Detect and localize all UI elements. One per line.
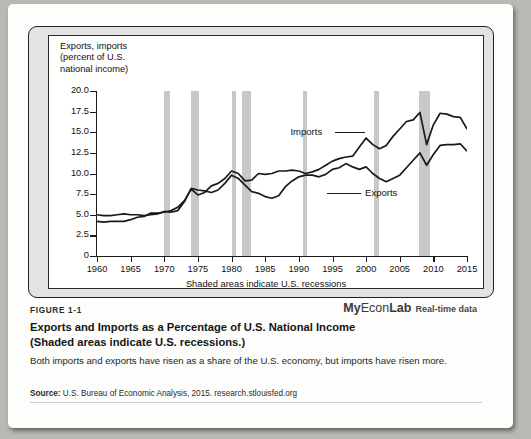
plot-inner xyxy=(97,91,467,256)
figure-panel: Exports, imports (percent of U.S. nation… xyxy=(28,26,494,298)
y-tick-label: 12.5 xyxy=(55,147,89,157)
myeconlab-branding: MyEconLabReal-time data xyxy=(343,301,477,315)
series-label-exports: Exports xyxy=(365,187,397,198)
source-label: Source: xyxy=(30,389,60,398)
y-tick-label: 0 xyxy=(55,250,89,260)
figure-caption-body: Both imports and exports have risen as a… xyxy=(30,354,482,367)
y-tick-label: 17.5 xyxy=(55,106,89,116)
series-label-imports: Imports xyxy=(290,126,322,137)
y-tick-label: 20.0 xyxy=(55,85,89,95)
myeconlab-my: My xyxy=(343,301,360,315)
myeconlab-econ: Econ xyxy=(361,301,390,315)
figure-source: Source: U.S. Bureau of Economic Analysis… xyxy=(30,389,482,398)
y-axis-labels: 02.55.07.510.012.515.017.520.0 xyxy=(49,36,89,288)
x-axis-caption: Shaded areas indicate U.S. recessions xyxy=(49,279,483,289)
y-tick-label: 7.5 xyxy=(55,188,89,198)
chart-plot-card: Exports, imports (percent of U.S. nation… xyxy=(48,35,484,289)
y-tick xyxy=(90,91,97,92)
x-tick xyxy=(400,256,401,262)
y-tick-label: 2.5 xyxy=(55,229,89,239)
x-tick xyxy=(198,256,199,262)
y-tick xyxy=(90,132,97,133)
y-tick xyxy=(90,194,97,195)
x-tick xyxy=(232,256,233,262)
source-divider xyxy=(30,402,482,403)
x-tick xyxy=(97,256,98,262)
x-tick xyxy=(131,256,132,262)
caption-title-line1: Exports and Imports as a Percentage of U… xyxy=(30,320,490,335)
figure-caption-title: Exports and Imports as a Percentage of U… xyxy=(30,320,490,349)
y-tick-label: 15.0 xyxy=(55,126,89,136)
exports-leader-line xyxy=(327,193,361,194)
x-tick xyxy=(366,256,367,262)
y-tick-label: 5.0 xyxy=(55,209,89,219)
caption-title-line2: (Shaded areas indicate U.S. recessions.) xyxy=(30,335,490,350)
y-tick-label: 10.0 xyxy=(55,168,89,178)
x-axis-line xyxy=(96,256,468,257)
y-tick xyxy=(90,215,97,216)
plot-area xyxy=(97,91,467,256)
y-tick xyxy=(90,235,97,236)
series-line-exports xyxy=(97,144,467,216)
x-tick-label: 2015 xyxy=(447,264,487,274)
x-tick xyxy=(433,256,434,262)
imports-leader-line xyxy=(335,132,365,133)
source-text: U.S. Bureau of Economic Analysis, 2015. … xyxy=(60,389,297,398)
x-tick xyxy=(333,256,334,262)
series-lines xyxy=(97,91,467,256)
x-tick xyxy=(265,256,266,262)
x-tick xyxy=(164,256,165,262)
x-tick xyxy=(299,256,300,262)
page-card: Exports, imports (percent of U.S. nation… xyxy=(8,4,513,428)
series-line-imports xyxy=(97,112,467,222)
y-tick xyxy=(90,174,97,175)
myeconlab-lab: Lab xyxy=(389,301,411,315)
y-tick xyxy=(90,112,97,113)
y-tick xyxy=(90,256,97,257)
y-tick xyxy=(90,153,97,154)
x-tick xyxy=(467,256,468,262)
realtime-data-label: Real-time data xyxy=(415,304,477,314)
figure-number: FIGURE 1-1 xyxy=(30,306,82,315)
